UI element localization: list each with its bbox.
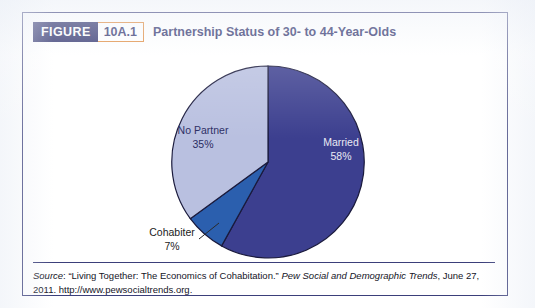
footer-divider xyxy=(33,262,495,263)
figure-number-badge: 10A.1 xyxy=(98,22,144,42)
pie-chart: Married 58% No Partner 35% Cohabiter 7% xyxy=(23,43,507,265)
source-text-part1: : “Living Together: The Economics of Coh… xyxy=(63,270,281,281)
figure-title: Partnership Status of 30- to 44-Year-Old… xyxy=(144,22,396,42)
source-note: Source: “Living Together: The Economics … xyxy=(33,269,499,296)
source-publication: Pew Social and Demographic Trends xyxy=(281,270,437,281)
figure-header: FIGURE 10A.1 Partnership Status of 30- t… xyxy=(33,22,396,42)
source-prefix: Source xyxy=(33,270,63,281)
figure-frame: FIGURE 10A.1 Partnership Status of 30- t… xyxy=(22,12,508,296)
pie-chart-svg xyxy=(23,43,507,265)
figure-tag-label: FIGURE xyxy=(33,22,98,42)
